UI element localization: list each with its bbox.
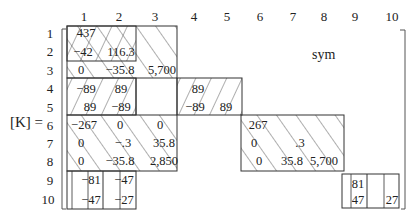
row-header: 6 xyxy=(44,119,56,132)
matrix-entry: 81 xyxy=(338,178,378,191)
row-header: 2 xyxy=(44,45,56,58)
column-header: 9 xyxy=(350,10,360,23)
matrix-entry: −.3 xyxy=(103,137,143,150)
matrix-entry: 437 xyxy=(66,27,106,40)
stiffness-matrix-figure: 1 2 3 4 5 6 7 8 9 10 1 2 3 4 5 6 7 8 9 1… xyxy=(0,0,416,218)
matrix-entry: 0 xyxy=(61,64,101,77)
matrix-entry: 5,700 xyxy=(142,64,182,77)
matrix-entry: 5,700 xyxy=(304,155,344,168)
matrix-entry: 116.3 xyxy=(101,46,141,59)
column-header: 7 xyxy=(288,10,298,23)
matrix-entry: 89 xyxy=(101,83,141,96)
column-header: 1 xyxy=(79,10,89,23)
matrix-entry: 0 xyxy=(61,137,101,150)
matrix-entry: −35.8 xyxy=(100,155,140,168)
matrix-entry: −35.8 xyxy=(100,64,140,77)
matrix-entry: 89 xyxy=(206,101,246,114)
column-header: 4 xyxy=(189,10,199,23)
row-header: 5 xyxy=(44,101,56,114)
column-header: 10 xyxy=(384,10,400,23)
row-header: 4 xyxy=(44,82,56,95)
matrix-entry: 35.8 xyxy=(144,137,184,150)
matrix-entry: −89 xyxy=(66,83,106,96)
matrix-entry: 0 xyxy=(234,137,274,150)
row-header: 7 xyxy=(44,137,56,150)
matrix-entry: 27 xyxy=(372,194,412,207)
matrix-entry: −267 xyxy=(64,119,104,132)
matrix-entry: 0 xyxy=(140,119,180,132)
matrix-entry: 0 xyxy=(61,155,101,168)
matrix-entry: −47 xyxy=(104,174,144,187)
matrix-entry: 267 xyxy=(238,119,278,132)
matrix-entry: 2,850 xyxy=(144,155,184,168)
matrix-entry: 0 xyxy=(100,119,140,132)
row-header: 9 xyxy=(44,174,56,187)
matrix-entry: −89 xyxy=(101,101,141,114)
column-header: 8 xyxy=(319,10,329,23)
row-header: 8 xyxy=(44,155,56,168)
matrix-entry: −42 xyxy=(63,46,103,59)
matrix-entry: 89 xyxy=(178,83,218,96)
column-header: 6 xyxy=(255,10,265,23)
matrix-entry: −27 xyxy=(104,194,144,207)
matrix-entry: .3 xyxy=(280,137,320,150)
column-header: 5 xyxy=(222,10,232,23)
row-header: 1 xyxy=(44,27,56,40)
column-header: 3 xyxy=(150,10,160,23)
matrix-label: [K] = xyxy=(10,115,43,130)
row-header: 10 xyxy=(40,193,56,206)
column-header: 2 xyxy=(114,10,124,23)
symmetry-note: sym xyxy=(312,47,335,63)
row-header: 3 xyxy=(44,64,56,77)
